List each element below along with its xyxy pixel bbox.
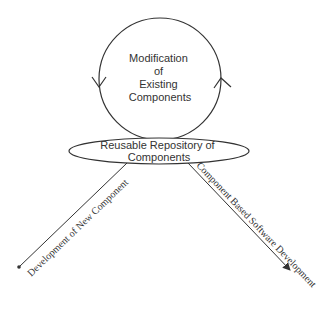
left-branch-line xyxy=(19,163,127,267)
repository-node: Reusable Repository of Components xyxy=(69,138,249,164)
right-branch-arrow xyxy=(188,163,290,270)
repository-label-line-2: Components xyxy=(128,151,191,163)
left-branch: Development of New Component xyxy=(17,163,130,278)
cycle-label-line-2: of xyxy=(154,65,164,77)
right-branch: Component Based Software Development xyxy=(188,160,319,290)
cycle-arrow-up-icon xyxy=(214,78,231,88)
cycle-label-line-1: Modification xyxy=(129,52,188,64)
svg-text:Modification of: Modification of Existing Components xyxy=(129,52,192,103)
left-branch-label: Development of New Component xyxy=(25,176,130,278)
right-branch-label: Component Based Software Development xyxy=(194,160,318,290)
repository-label-line-1: Reusable Repository of xyxy=(100,139,215,151)
cycle-label-line-4: Components xyxy=(129,91,192,103)
modification-cycle-node: Modification of Existing Components xyxy=(92,18,231,140)
cycle-label-line-3: Existing xyxy=(139,78,178,90)
diagram-canvas: Modification of Existing Components Reus… xyxy=(0,0,322,314)
branch-end-dot-icon xyxy=(17,265,21,269)
